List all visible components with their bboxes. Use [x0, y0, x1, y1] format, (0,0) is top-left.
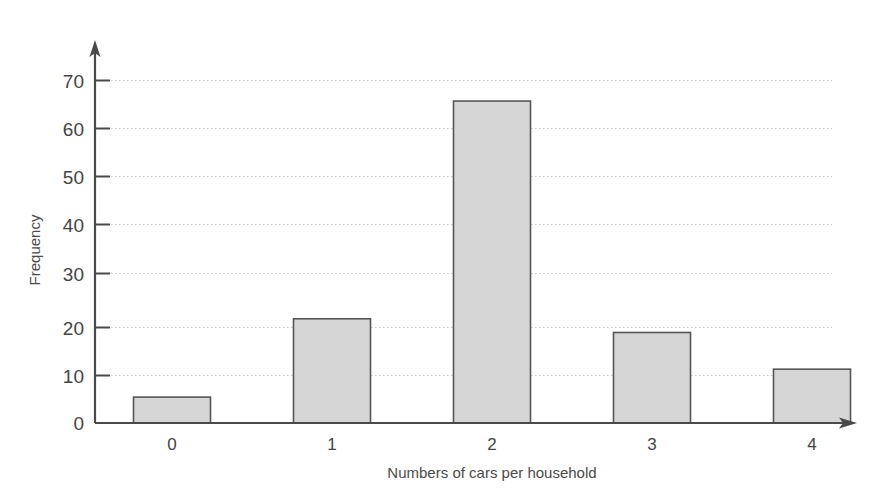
x-tick-label-0: 0 [167, 435, 176, 454]
x-tick-label-2: 2 [487, 435, 496, 454]
y-axis-title: Frequency [26, 214, 43, 285]
bar-series [134, 101, 851, 423]
bar-category-4[interactable] [774, 369, 851, 423]
y-tick-labels: 0 10 20 30 40 50 60 70 [63, 71, 84, 434]
y-tick-label-50: 50 [63, 167, 84, 188]
y-tick-label-30: 30 [63, 264, 84, 285]
y-tick-marks [95, 81, 110, 376]
bar-category-3[interactable] [614, 332, 691, 423]
bar-chart-figure: 0 10 20 30 40 50 60 70 0 1 2 3 4 Frequen… [0, 0, 896, 500]
y-axis [90, 40, 101, 423]
y-tick-label-40: 40 [63, 215, 84, 236]
x-tick-label-1: 1 [327, 435, 336, 454]
y-tick-label-10: 10 [63, 366, 84, 387]
bar-category-2[interactable] [454, 101, 531, 423]
x-tick-label-4: 4 [807, 435, 816, 454]
y-tick-label-60: 60 [63, 119, 84, 140]
x-axis-title: Numbers of cars per household [387, 464, 596, 481]
x-tick-label-3: 3 [647, 435, 656, 454]
y-tick-label-0: 0 [73, 413, 84, 434]
bar-category-1[interactable] [294, 319, 371, 423]
chart-canvas: 0 10 20 30 40 50 60 70 0 1 2 3 4 Frequen… [0, 0, 896, 500]
x-tick-labels: 0 1 2 3 4 [167, 435, 816, 454]
y-tick-label-20: 20 [63, 318, 84, 339]
y-tick-label-70: 70 [63, 71, 84, 92]
bar-category-0[interactable] [134, 397, 211, 423]
